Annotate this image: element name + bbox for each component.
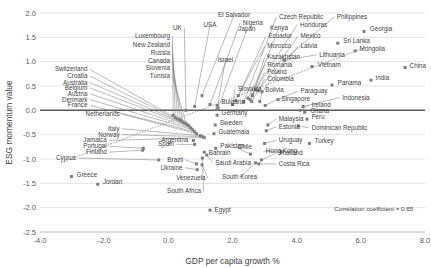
data-point-marker[interactable] bbox=[303, 111, 306, 114]
data-point-label: Brazil bbox=[167, 156, 183, 163]
data-point-marker[interactable] bbox=[363, 30, 366, 33]
data-point-label: Slovakia bbox=[238, 85, 262, 92]
x-axis-tick-label: 2.0 bbox=[227, 236, 238, 245]
data-point-label: Chile bbox=[238, 143, 253, 150]
data-point-marker[interactable] bbox=[266, 123, 269, 126]
data-point-marker[interactable] bbox=[263, 142, 266, 145]
data-point-marker[interactable] bbox=[251, 94, 254, 97]
data-point-label: France bbox=[68, 101, 88, 108]
data-point-marker[interactable] bbox=[265, 129, 268, 132]
data-point-label: Saudi Arabia bbox=[215, 159, 251, 166]
data-point-marker[interactable] bbox=[216, 104, 219, 107]
data-point-label: Honduras bbox=[300, 21, 327, 28]
data-point-marker[interactable] bbox=[214, 123, 217, 126]
data-point-marker[interactable] bbox=[212, 132, 215, 135]
data-point-label: Morocco bbox=[267, 42, 292, 49]
data-point-marker[interactable] bbox=[195, 162, 198, 165]
data-point-label: Bolivia bbox=[265, 86, 284, 93]
data-point-label: Mongolia bbox=[360, 45, 386, 53]
data-point-marker[interactable] bbox=[174, 116, 177, 119]
data-point-label: South Korea bbox=[222, 173, 258, 180]
data-point-marker[interactable] bbox=[249, 153, 252, 156]
data-point-label: Peru bbox=[311, 113, 325, 120]
data-point-marker[interactable] bbox=[277, 98, 280, 101]
data-point-label: Dominican Republic bbox=[311, 124, 367, 132]
data-point-marker[interactable] bbox=[70, 175, 73, 178]
data-point-label: Uruguay bbox=[279, 136, 304, 144]
data-point-label: Turkey bbox=[315, 137, 335, 145]
data-point-marker[interactable] bbox=[201, 163, 204, 166]
data-point-marker[interactable] bbox=[193, 105, 196, 108]
data-point-label: Georgia bbox=[370, 25, 393, 33]
data-point-label: New Zealand bbox=[133, 41, 171, 48]
data-point-marker[interactable] bbox=[237, 94, 240, 97]
esg-gdp-scatter-chart: 2.01.51.00.50.0-0.5-1.0-1.5-2.0-2.5-4.0-… bbox=[0, 0, 431, 268]
data-point-marker[interactable] bbox=[311, 65, 314, 68]
data-point-marker[interactable] bbox=[336, 42, 339, 45]
data-point-label: Ukraine bbox=[161, 164, 183, 171]
label-leader-line bbox=[266, 127, 276, 131]
data-point-marker[interactable] bbox=[184, 109, 187, 112]
data-point-label: Philippines bbox=[337, 13, 367, 21]
data-point-label: Greece bbox=[77, 171, 98, 178]
data-point-marker[interactable] bbox=[250, 100, 253, 103]
data-point-marker[interactable] bbox=[193, 143, 196, 146]
data-point-marker[interactable] bbox=[196, 168, 199, 171]
data-point-marker[interactable] bbox=[308, 142, 311, 145]
data-point-marker[interactable] bbox=[302, 105, 305, 108]
data-point-marker[interactable] bbox=[404, 66, 407, 69]
data-point-marker[interactable] bbox=[298, 109, 301, 112]
data-point-marker[interactable] bbox=[258, 100, 261, 103]
data-point-label: Egypt bbox=[215, 206, 231, 214]
y-axis-tick-label: 1.5 bbox=[25, 33, 36, 42]
y-axis-tick-label: -1.5 bbox=[23, 179, 36, 188]
data-point-marker[interactable] bbox=[264, 104, 267, 107]
data-point-marker[interactable] bbox=[354, 49, 357, 52]
y-axis-tick-label: 0.0 bbox=[25, 106, 36, 115]
label-leader-line bbox=[109, 138, 204, 141]
data-point-marker[interactable] bbox=[216, 114, 219, 117]
data-point-label: Latvia bbox=[301, 42, 318, 49]
data-point-marker[interactable] bbox=[260, 158, 263, 161]
data-point-label: China bbox=[410, 62, 427, 69]
data-point-label: El Salvador bbox=[218, 11, 250, 18]
data-point-marker[interactable] bbox=[201, 157, 204, 160]
label-leader-line bbox=[186, 160, 197, 164]
data-point-marker[interactable] bbox=[195, 132, 198, 135]
x-axis-tick-label: -2.0 bbox=[98, 236, 111, 245]
data-point-label: Singapore bbox=[281, 95, 310, 103]
data-point-marker[interactable] bbox=[257, 162, 260, 165]
data-point-marker[interactable] bbox=[176, 118, 179, 121]
data-point-label: Colombia bbox=[267, 75, 294, 82]
data-point-label: Kazakhstan bbox=[267, 53, 300, 60]
data-point-marker[interactable] bbox=[157, 158, 160, 161]
data-point-marker[interactable] bbox=[192, 139, 195, 142]
y-axis-tick-label: 1.0 bbox=[25, 57, 36, 66]
data-point-label: Venezuela bbox=[176, 174, 206, 181]
data-point-label: Netherlands bbox=[86, 110, 120, 117]
y-axis-tick-label: 0.5 bbox=[25, 82, 36, 91]
data-point-label: India bbox=[376, 74, 390, 81]
data-point-label: South Africa bbox=[167, 187, 201, 194]
data-point-label: Tunisia bbox=[150, 72, 171, 79]
data-point-marker[interactable] bbox=[96, 183, 99, 186]
label-leader-line bbox=[90, 88, 189, 126]
data-point-marker[interactable] bbox=[201, 94, 204, 97]
data-point-label: Ecuador bbox=[268, 32, 291, 39]
data-point-marker[interactable] bbox=[141, 149, 144, 152]
data-point-marker[interactable] bbox=[330, 84, 333, 87]
data-point-label: Sri Lanka bbox=[343, 37, 370, 44]
data-point-marker[interactable] bbox=[305, 118, 308, 121]
data-point-marker[interactable] bbox=[370, 79, 373, 82]
y-axis-title: ESG momentum value bbox=[4, 80, 14, 165]
data-point-marker[interactable] bbox=[203, 151, 206, 154]
data-point-label: USA bbox=[204, 21, 218, 28]
data-point-marker[interactable] bbox=[203, 136, 206, 139]
data-point-label: Japan bbox=[238, 25, 256, 33]
data-point-marker[interactable] bbox=[216, 108, 219, 111]
data-point-marker[interactable] bbox=[209, 103, 212, 106]
data-point-marker[interactable] bbox=[254, 161, 257, 164]
data-point-marker[interactable] bbox=[209, 209, 212, 212]
label-leader-line bbox=[265, 140, 277, 143]
data-point-label: Romania bbox=[267, 61, 293, 68]
